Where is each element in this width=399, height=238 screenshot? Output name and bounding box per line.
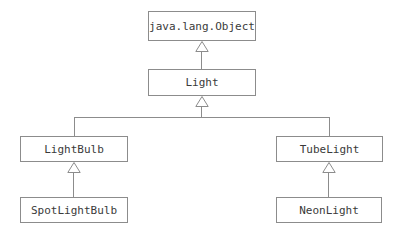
class-name-spotlightbulb: SpotLightBulb	[31, 204, 117, 217]
class-name-java-lang-object: java.lang.Object	[149, 20, 255, 33]
generalization-arrow-light-to-object	[195, 41, 209, 52]
class-box-light[interactable]: Light	[148, 69, 256, 96]
uml-class-diagram-canvas: java.lang.Object Light LightBulb SpotLig…	[0, 0, 399, 238]
class-box-lightbulb[interactable]: LightBulb	[20, 136, 128, 162]
connector-bus-horizontal	[74, 117, 330, 118]
connector-neonlight-to-tubelight	[328, 173, 329, 197]
class-box-tubelight[interactable]: TubeLight	[276, 136, 383, 162]
class-name-light: Light	[185, 76, 218, 89]
generalization-arrow-neonlight-to-tubelight	[322, 162, 336, 173]
generalization-arrow-subclasses-to-light	[195, 96, 209, 107]
class-name-lightbulb: LightBulb	[44, 143, 104, 156]
class-name-neonlight: NeonLight	[299, 204, 359, 217]
class-box-spotlightbulb[interactable]: SpotLightBulb	[20, 197, 128, 223]
connector-bus-drop-right	[329, 117, 330, 136]
generalization-arrow-spotlightbulb-to-lightbulb	[67, 162, 81, 173]
class-box-java-lang-object[interactable]: java.lang.Object	[148, 11, 256, 41]
connector-spotlightbulb-to-lightbulb	[73, 173, 74, 197]
class-box-neonlight[interactable]: NeonLight	[276, 197, 382, 223]
connector-light-to-object	[201, 52, 202, 69]
class-name-tubelight: TubeLight	[300, 143, 360, 156]
connector-bus-drop-left	[74, 117, 75, 136]
